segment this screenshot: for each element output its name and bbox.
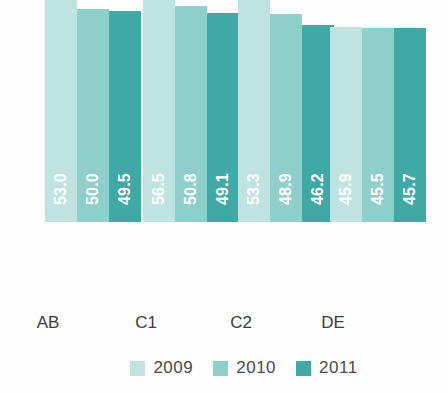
legend-item-2009[interactable]: 2009 <box>130 358 193 378</box>
bar-value-label: 45.5 <box>362 160 394 218</box>
bar-c1-2010[interactable]: 50.8 <box>175 6 207 222</box>
bar-c2-2009[interactable]: 53.3 <box>238 0 270 222</box>
legend-item-2010[interactable]: 2010 <box>213 358 276 378</box>
bar-chart: 53.0 50.0 49.5 56.5 50.8 49.1 53.3 <box>0 0 448 393</box>
bar-group-c2: 53.3 48.9 46.2 <box>238 0 334 222</box>
legend-label: 2009 <box>153 358 193 378</box>
bar-ab-2011[interactable]: 49.5 <box>109 11 141 222</box>
legend: 2009 2010 2011 <box>0 358 448 378</box>
bar-group-c1: 56.5 50.8 49.1 <box>143 0 239 222</box>
bar-de-2011[interactable]: 45.7 <box>394 28 426 222</box>
legend-swatch-icon <box>130 361 145 376</box>
bar-group-ab: 53.0 50.0 49.5 <box>45 0 141 222</box>
x-tick-label-de: DE <box>278 313 388 333</box>
legend-swatch-icon <box>296 361 311 376</box>
legend-swatch-icon <box>213 361 228 376</box>
x-tick-label-c1: C1 <box>91 313 201 333</box>
bar-c1-2009[interactable]: 56.5 <box>143 0 175 222</box>
bar-value-label: 49.1 <box>207 160 239 218</box>
bar-value-label: 45.7 <box>394 160 426 218</box>
bar-value-label: 49.5 <box>109 160 141 218</box>
bar-group-de: 45.9 45.5 45.7 <box>330 0 426 222</box>
x-tick-label-ab: AB <box>0 313 103 333</box>
bar-ab-2010[interactable]: 50.0 <box>77 9 109 222</box>
bar-c2-2010[interactable]: 48.9 <box>270 14 302 222</box>
bar-value-label: 56.5 <box>143 160 175 218</box>
bar-value-label: 45.9 <box>330 160 362 218</box>
bar-value-label: 53.0 <box>45 160 77 218</box>
bar-value-label: 48.9 <box>270 160 302 218</box>
bar-value-label: 50.8 <box>175 160 207 218</box>
bar-de-2010[interactable]: 45.5 <box>362 28 394 222</box>
bar-de-2009[interactable]: 45.9 <box>330 27 362 222</box>
legend-label: 2010 <box>236 358 276 378</box>
bar-c1-2011[interactable]: 49.1 <box>207 13 239 222</box>
plot-area: 53.0 50.0 49.5 56.5 50.8 49.1 53.3 <box>0 0 448 310</box>
bar-value-label: 53.3 <box>238 160 270 218</box>
legend-item-2011[interactable]: 2011 <box>296 358 358 378</box>
legend-label: 2011 <box>319 358 358 378</box>
bar-ab-2009[interactable]: 53.0 <box>45 0 77 222</box>
bar-value-label: 50.0 <box>77 160 109 218</box>
